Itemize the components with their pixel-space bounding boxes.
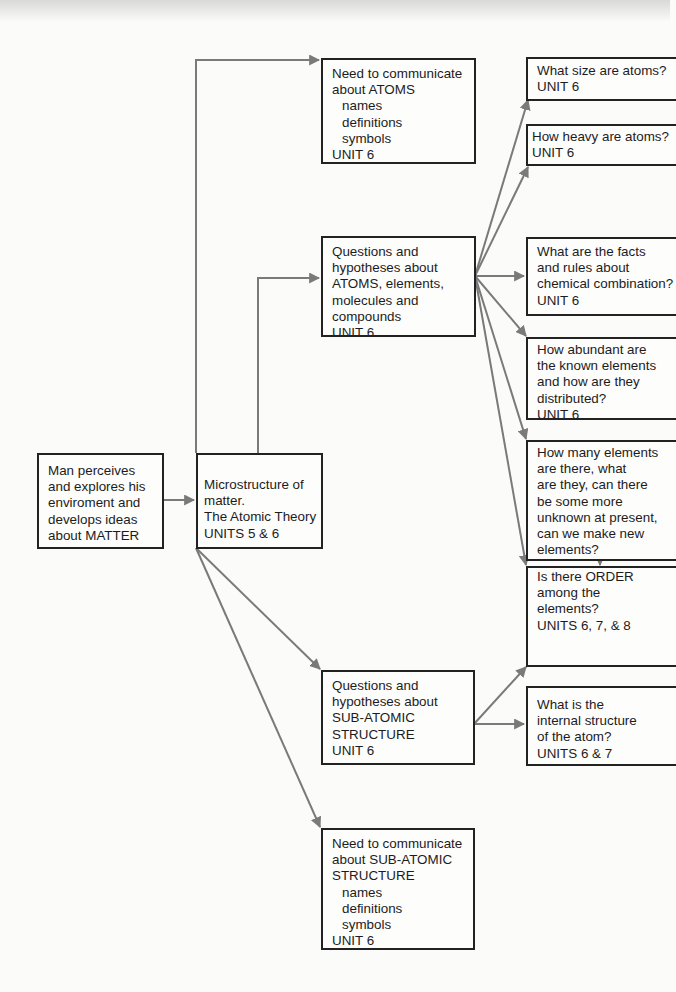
arrow-q-atoms-to-howmany [475,276,526,439]
arrow-q-atoms-to-abundant [475,276,526,336]
node-subitem: definitions [332,115,467,131]
node-text: molecules and [332,293,467,309]
node-text: The Atomic Theory [204,509,314,525]
node-text: How heavy are atoms? [532,129,669,145]
node-communicate-atoms: Need to communicate about ATOMS names de… [321,58,476,164]
node-questions-sub-atomic: Questions and hypotheses about SUB-ATOMI… [321,670,475,765]
arrow-q-atoms-to-order [475,276,526,565]
node-text: hypotheses about [332,260,467,276]
node-chemical-combination: What are the facts and rules about chemi… [526,237,676,316]
node-text: elements? [537,542,669,558]
node-questions-atoms: Questions and hypotheses about ATOMS, el… [321,236,476,337]
node-text: Need to communicate [332,836,466,852]
node-text: about ATOMS [332,82,467,98]
node-element-order: Is there ORDER among the elements? UNITS… [526,566,676,667]
node-element-abundance: How abundant are the known elements and … [526,337,676,420]
node-text: of the atom? [537,729,669,745]
node-unit: UNIT 6 [537,558,669,561]
node-unit: UNIT 6 [532,145,669,161]
node-text: among the [537,585,669,601]
node-text: STRUCTURE [332,868,466,884]
node-text: distributed? [537,391,669,407]
node-text: Need to communicate [332,66,467,82]
node-unit: UNITS 6, 7, & 8 [537,618,669,634]
node-text: How abundant are [537,342,669,358]
arrow-micro-to-q-atoms [258,278,319,453]
node-unit: UNIT 6 [537,293,669,309]
node-text: What size are atoms? [537,63,669,79]
node-text: chemical combination? [537,276,669,292]
node-text: unknown at present, [537,510,669,526]
node-text: are they, can there [537,477,669,493]
node-subitem: names [332,885,466,901]
arrow-q-atoms-to-heavy [475,167,528,276]
node-subitem: names [332,98,467,114]
node-atom-internal-structure: What is the internal structure of the at… [526,686,676,766]
node-text: Questions and [332,678,466,694]
node-text: elements? [537,601,669,617]
node-text: be some more [537,494,669,510]
node-unit: UNIT 6 [537,79,669,95]
node-text: the known elements [537,358,669,374]
node-unit: UNIT 6 [537,407,669,420]
node-text: are there, what [537,461,669,477]
node-text: How many elements [537,445,669,461]
node-unit: UNIT 6 [332,933,466,949]
node-subitem: definitions [332,901,466,917]
node-text: Microstructure of [204,477,314,493]
node-text: about SUB-ATOMIC [332,852,466,868]
node-text: and explores his [48,479,155,495]
node-text: Man perceives [48,463,155,479]
arrow-q-sub-to-order [474,667,526,724]
node-unit: UNIT 6 [332,743,466,759]
arrow-micro-to-comm-sub [196,548,320,827]
node-text: What are the facts [537,244,669,260]
arrow-micro-to-q-sub [196,548,320,669]
node-text: hypotheses about [332,694,466,710]
node-text: develops ideas [48,512,155,528]
node-text: Questions and [332,244,467,260]
node-text: and how are they [537,374,669,390]
node-atom-weight: How heavy are atoms? UNIT 6 [526,124,676,166]
node-text: Is there ORDER [537,569,669,585]
node-man-perceives-matter: Man perceives and explores his enviromen… [37,453,164,549]
node-atom-size: What size are atoms? UNIT 6 [526,57,676,101]
node-unit: UNIT 6 [332,325,467,337]
node-subitem: symbols [332,917,466,933]
node-text: ATOMS, elements, [332,276,467,292]
node-text: enviroment and [48,495,155,511]
node-communicate-sub-atomic: Need to communicate about SUB-ATOMIC STR… [321,828,475,950]
arrow-q-atoms-to-size [475,100,528,276]
node-unit: UNITS 6 & 7 [537,746,669,762]
node-text: and rules about [537,260,669,276]
node-text: UNITS 5 & 6 [204,526,314,542]
node-text: can we make new [537,526,669,542]
node-text: internal structure [537,713,669,729]
node-how-many-elements: How many elements are there, what are th… [526,440,676,561]
node-text: about MATTER [48,528,155,544]
node-text: SUB-ATOMIC [332,710,466,726]
node-text: STRUCTURE [332,727,466,743]
node-text: compounds [332,309,467,325]
node-text: What is the [537,697,669,713]
node-text: matter. [204,493,314,509]
node-microstructure-atomic-theory: Microstructure of matter. The Atomic The… [196,453,323,549]
node-unit: UNIT 6 [332,147,467,163]
node-subitem: symbols [332,131,467,147]
